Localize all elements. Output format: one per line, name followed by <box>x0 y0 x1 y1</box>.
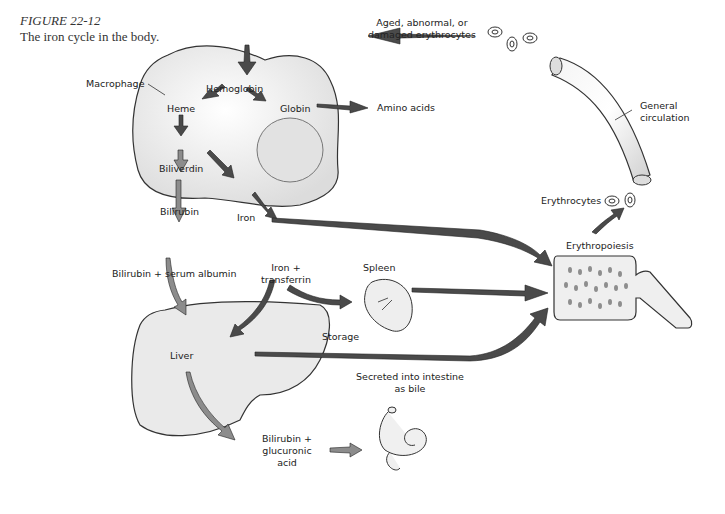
label-bilirubin: Bilirubin <box>160 206 199 218</box>
label-iron: Iron <box>237 212 255 224</box>
label-iron-transferrin: Iron + transferrin <box>261 262 311 286</box>
label-line: circulation <box>640 112 689 124</box>
label-line: General <box>640 100 689 112</box>
label-bilirubin-serum-albumin: Bilirubin + serum albumin <box>112 268 236 280</box>
label-line: acid <box>262 457 312 469</box>
label-line: transferrin <box>261 274 311 286</box>
erythrocytes-new <box>605 193 635 207</box>
label-globin: Globin <box>280 103 311 115</box>
label-general-circulation: General circulation <box>640 100 689 124</box>
label-line: Iron + <box>261 262 311 274</box>
macrophage-nucleus <box>257 118 323 182</box>
label-heme: Heme <box>167 103 195 115</box>
label-erythropoiesis: Erythropoiesis <box>566 240 634 252</box>
label-storage: Storage <box>322 331 359 343</box>
label-line: Secreted into intestine <box>356 371 464 383</box>
label-line: damaged erythrocytes <box>368 29 476 41</box>
label-secreted-into-intestine: Secreted into intestine as bile <box>356 371 464 395</box>
label-line: Aged, abnormal, or <box>368 17 476 29</box>
label-spleen: Spleen <box>363 262 395 274</box>
label-amino-acids: Amino acids <box>377 102 435 114</box>
label-line: as bile <box>356 383 464 395</box>
label-line: glucuronic <box>262 445 312 457</box>
label-hemoglobin: Hemoglobin <box>206 83 263 95</box>
spleen <box>365 279 413 331</box>
label-macrophage: Macrophage <box>86 78 145 90</box>
label-bilirubin-glucuronic-acid: Bilirubin + glucuronic acid <box>262 433 312 469</box>
liver <box>132 302 330 436</box>
label-biliverdin: Biliverdin <box>159 163 203 175</box>
label-erythrocytes: Erythrocytes <box>541 195 601 207</box>
blood-vessel <box>552 58 650 182</box>
label-line: Bilirubin + <box>262 433 312 445</box>
label-aged-erythrocytes: Aged, abnormal, or damaged erythrocytes <box>368 17 476 41</box>
label-liver: Liver <box>170 350 193 362</box>
erythrocytes-top <box>488 27 537 51</box>
intestine <box>379 407 426 470</box>
bone-marrow <box>554 256 692 328</box>
